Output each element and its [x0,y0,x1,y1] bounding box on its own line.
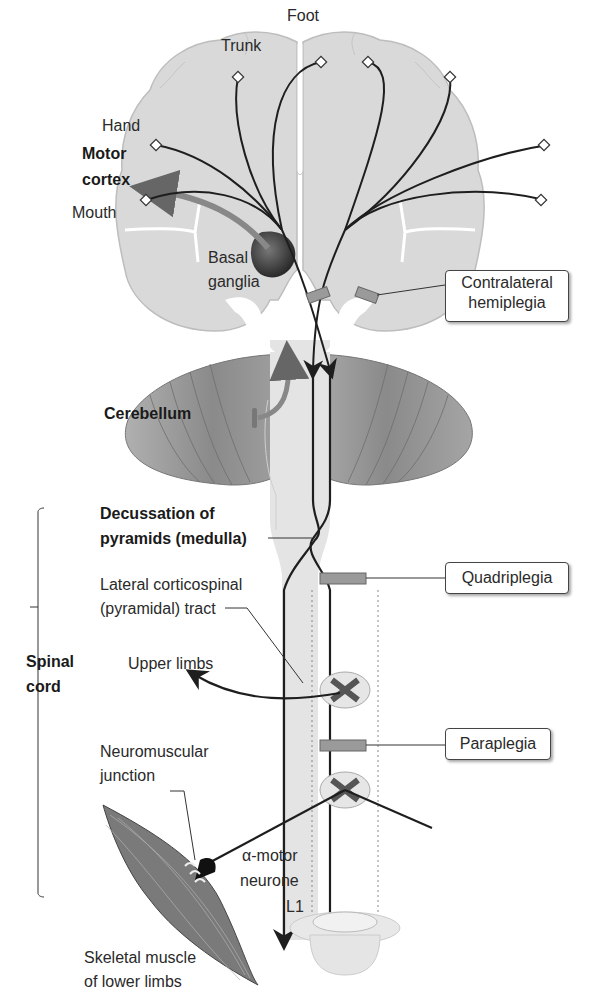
muscle-label-line2: of lower limbs [84,972,182,991]
alpha-motor-label-line1: α-motor [242,846,297,865]
l1-label: L1 [286,897,304,916]
cerebellum-label: Cerebellum [104,404,191,423]
spinal-cord-label-line2: cord [26,677,61,696]
quadriplegia-label: Quadriplegia [454,565,560,591]
decussation-label-line1: Decussation of [100,504,215,523]
basal-ganglia-label-line1: Basal [208,248,248,267]
paraplegia-label: Paraplegia [454,731,542,757]
muscle-label-line1: Skeletal muscle [84,948,196,967]
motor-cortex-label-line1: Motor [82,144,126,163]
contralateral-hemiplegia-line2: hemiplegia [454,293,560,313]
alpha-motor-label-line2: neurone [240,871,299,890]
upper-limb-efferent [195,675,340,698]
cord-outline-dotted [312,590,378,930]
lateral-tract-label-line2: (pyramidal) tract [100,599,216,618]
trunk-label: Trunk [221,36,261,55]
sensory-axon [345,790,432,828]
l1-vertebra [290,912,400,975]
lateral-tract-label-line1: Lateral corticospinal [100,575,242,594]
nmj-label-line2: junction [100,766,155,785]
contralateral-hemiplegia-line1: Contralateral [454,273,560,293]
corticospinal-diagram: Trunk Foot Hand Motor cortex Mouth Basal… [0,0,598,1005]
spinal-cord-label-line1: Spinal [26,652,74,671]
quadriplegia-box: Quadriplegia [445,562,569,594]
motor-cortex-label-line2: cortex [82,170,130,189]
nmj-label-line1: Neuromuscular [100,742,208,761]
paraplegia-box: Paraplegia [445,728,551,760]
mouth-label: Mouth [72,203,116,222]
basal-ganglia-label-line2: ganglia [208,272,260,291]
foot-label: Foot [287,6,319,25]
decussation-label-line2: pyramids (medulla) [100,529,247,548]
upper-limbs-label: Upper limbs [128,654,213,673]
contralateral-hemiplegia-box: Contralateral hemiplegia [445,270,569,322]
hand-label: Hand [102,116,140,135]
